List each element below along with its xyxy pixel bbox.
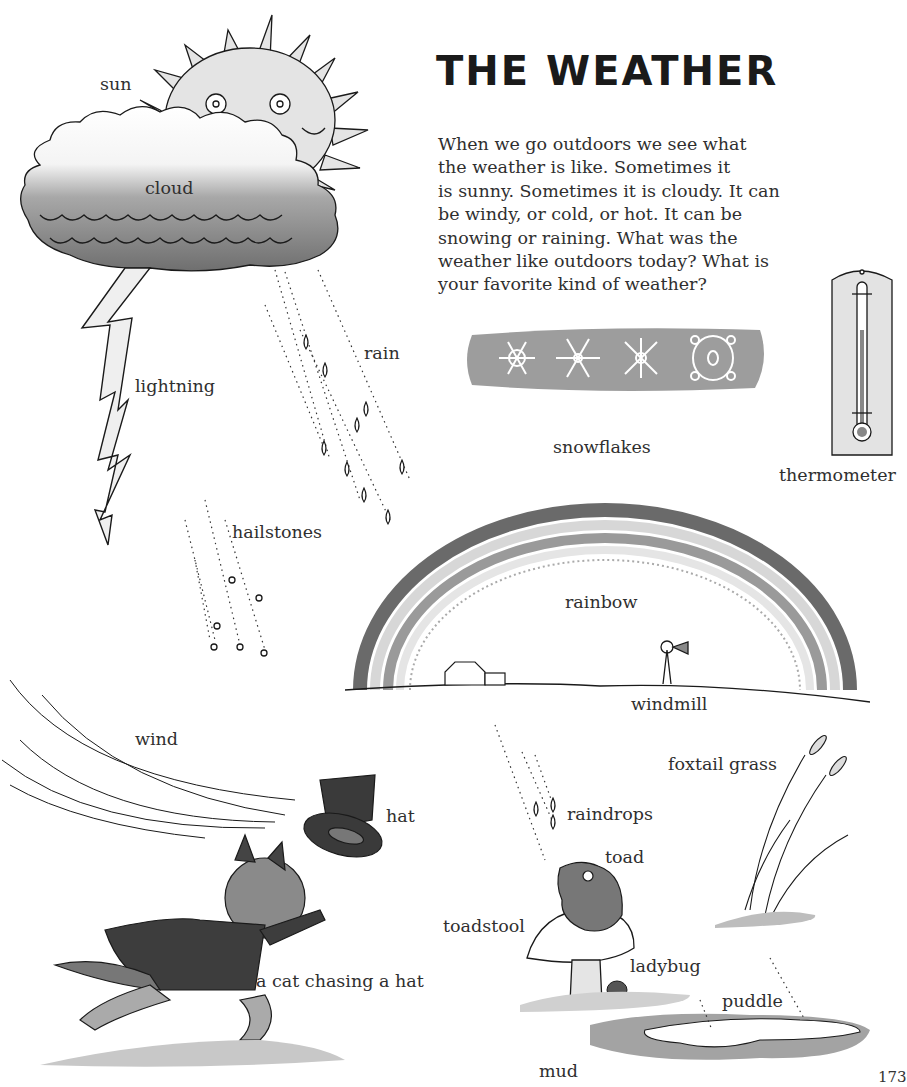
intro-line: When we go outdoors we see what <box>438 133 778 156</box>
snowflakes-illustration <box>467 328 764 391</box>
label-snowflakes: snowflakes <box>553 439 651 457</box>
grass-under-cat <box>40 1040 345 1067</box>
label-foxtail-grass: foxtail grass <box>668 756 777 774</box>
page-title: THE WEATHER <box>436 48 778 94</box>
label-puddle: puddle <box>722 993 783 1011</box>
intro-line: the weather is like. Sometimes it <box>438 156 778 179</box>
label-windmill: windmill <box>631 696 707 714</box>
label-cloud: cloud <box>145 180 193 198</box>
label-thermometer: thermometer <box>779 467 896 485</box>
label-raindrops: raindrops <box>567 806 653 824</box>
label-wind: wind <box>135 731 178 749</box>
label-sun: sun <box>100 76 132 94</box>
wind-illustration <box>2 680 295 838</box>
grass-under-toadstool <box>520 992 690 1012</box>
label-ladybug: ladybug <box>630 958 701 976</box>
lightning-illustration <box>82 268 150 545</box>
rain-illustration <box>265 270 410 520</box>
thermometer-illustration <box>832 270 892 455</box>
raindrops-illustration <box>495 725 555 860</box>
label-lightning: lightning <box>135 378 215 396</box>
label-toadstool: toadstool <box>443 918 525 936</box>
cat-illustration <box>55 835 325 1040</box>
intro-line: is sunny. Sometimes it is cloudy. It can <box>438 180 778 203</box>
intro-line: snowing or raining. What was the <box>438 227 778 250</box>
page-number: 173 <box>878 1068 907 1086</box>
intro-line: be windy, or cold, or hot. It can be <box>438 203 778 226</box>
grass-under-foxtail <box>715 912 815 928</box>
intro-line: weather like outdoors today? What is <box>438 250 778 273</box>
windmill-illustration <box>661 641 688 684</box>
intro-paragraph: When we go outdoors we see what the weat… <box>438 133 778 297</box>
label-mud: mud <box>539 1063 578 1081</box>
hat-illustration <box>299 775 387 865</box>
farmhouse-illustration <box>445 662 505 685</box>
label-hailstones: hailstones <box>232 524 322 542</box>
label-rain: rain <box>364 345 400 363</box>
label-toad: toad <box>605 849 644 867</box>
label-rainbow: rainbow <box>565 594 637 612</box>
intro-line: your favorite kind of weather? <box>438 273 778 296</box>
label-hat: hat <box>386 808 415 826</box>
label-cat: a cat chasing a hat <box>256 973 424 991</box>
